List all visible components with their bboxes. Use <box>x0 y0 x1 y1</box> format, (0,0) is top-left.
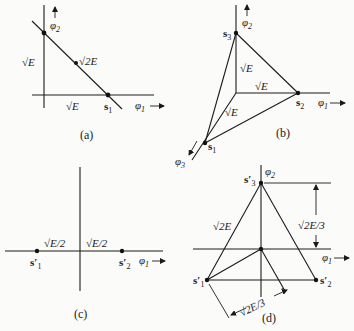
point-s1-prime <box>35 249 39 253</box>
phi1-label: φ1 <box>135 99 145 114</box>
s2-label: s2 <box>296 96 304 111</box>
phi2-label: φ2 <box>242 16 252 31</box>
caption-a: (a) <box>80 128 93 142</box>
caption-d: (d) <box>262 311 276 325</box>
dist-label-s2: √E <box>255 80 268 92</box>
panel-d: φ2 s′3 s′1 s′2 √2E √2E/3 √2E/3 φ1 (d) <box>193 165 349 325</box>
center-extension <box>261 249 285 291</box>
phi1-label: φ1 <box>139 254 149 269</box>
point-s3-prime <box>259 181 263 185</box>
point-s2-prime <box>120 249 124 253</box>
s3-prime-label: s′3 <box>244 173 255 188</box>
dist-label-s1: √E <box>225 106 238 118</box>
s1-label: s1 <box>104 100 112 115</box>
dist-label-right: √E/2 <box>86 237 108 249</box>
edge-s3-s1 <box>205 33 236 143</box>
dist-label-height: √2E/3 <box>298 219 325 231</box>
dist-label-bottom: √E <box>66 100 79 112</box>
phi3-label: φ3 <box>175 155 185 170</box>
center-point <box>259 247 263 251</box>
dist-label-left: √E <box>22 56 35 68</box>
dist-label-left: √E/2 <box>44 237 66 249</box>
caption-b: (b) <box>276 126 290 140</box>
panel-b: φ2 s3 s2 s1 √E √E √E φ1 φ3 (b) <box>175 5 345 170</box>
phi3-arrow-icon <box>189 141 197 155</box>
phi1-label: φ1 <box>318 96 328 111</box>
signal-constellation-figure: φ2 √E √2E √E s1 φ1 (a) φ2 s3 s2 s1 √E √E… <box>0 0 354 331</box>
dist-label-s3: √E <box>240 62 253 74</box>
dim-arrow-right-icon <box>274 290 287 296</box>
edge-s3-s2 <box>261 183 316 280</box>
s3-label: s3 <box>223 27 231 42</box>
phi2-label: φ2 <box>50 19 60 34</box>
panel-a: φ2 √E √2E √E s1 φ1 (a) <box>22 5 164 142</box>
dist-label-diag: √2E <box>79 55 98 67</box>
point-s2-prime <box>314 278 318 282</box>
s2-prime-label: s′2 <box>320 274 331 289</box>
panel-c: √E/2 √E/2 s′1 s′2 φ1 (c) <box>5 167 165 321</box>
dim-ref-line-left <box>209 284 229 318</box>
point-s1 <box>203 141 207 145</box>
dist-label-edge: √2E <box>213 220 232 232</box>
s1-label: s1 <box>208 140 216 155</box>
point-s1-prime <box>205 278 209 282</box>
caption-c: (c) <box>74 307 87 321</box>
phi1-label: φ1 <box>322 251 332 266</box>
point-s1 <box>106 93 111 98</box>
point-s3 <box>234 31 238 35</box>
midpoint <box>74 61 78 65</box>
s1-prime-label: s′1 <box>30 256 41 271</box>
point-s2 <box>42 31 47 36</box>
s2-prime-label: s′2 <box>119 256 130 271</box>
point-s2 <box>296 91 300 95</box>
phi2-label: φ2 <box>265 165 275 180</box>
s1-prime-label: s′1 <box>193 274 204 289</box>
